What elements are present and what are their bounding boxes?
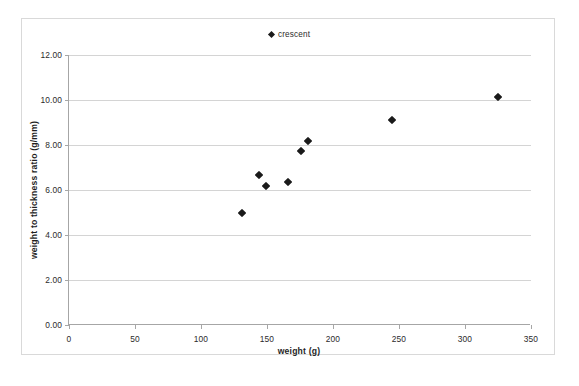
scatter-chart-figure: crescent weight to thickness ratio (g/mm… — [0, 0, 579, 386]
data-point — [238, 208, 246, 216]
y-axis-title-text: weight to thickness ratio (g/mm) — [29, 121, 39, 259]
x-axis-tick-label: 50 — [130, 334, 140, 344]
y-axis-tick-mark — [65, 190, 69, 191]
gridline-horizontal — [69, 280, 531, 281]
x-axis-tick-mark — [531, 325, 532, 329]
gridline-horizontal — [69, 235, 531, 236]
y-axis-tick-label: 12.00 — [41, 50, 62, 60]
x-axis-tick-mark — [135, 325, 136, 329]
y-axis-title: weight to thickness ratio (g/mm) — [27, 55, 41, 325]
x-axis-tick-mark — [399, 325, 400, 329]
gridline-horizontal — [69, 55, 531, 56]
legend-entry-crescent: crescent — [269, 30, 310, 40]
y-axis-tick-label: 8.00 — [45, 140, 62, 150]
diamond-marker-icon — [268, 30, 275, 37]
y-axis-tick-mark — [65, 145, 69, 146]
x-axis-tick-label: 0 — [67, 334, 72, 344]
x-axis-tick-label: 300 — [458, 334, 472, 344]
y-axis-tick-label: 0.00 — [45, 320, 62, 330]
y-axis-tick-label: 6.00 — [45, 185, 62, 195]
x-axis-tick-label: 150 — [260, 334, 274, 344]
x-axis-tick-label: 200 — [326, 334, 340, 344]
x-axis-tick-label: 100 — [194, 334, 208, 344]
y-axis-tick-label: 2.00 — [45, 275, 62, 285]
x-axis-tick-mark — [69, 325, 70, 329]
data-point — [255, 171, 263, 179]
x-axis-tick-label: 350 — [524, 334, 538, 344]
y-axis-tick-mark — [65, 235, 69, 236]
data-point — [284, 178, 292, 186]
legend-label: crescent — [278, 30, 310, 40]
chart-legend: crescent — [0, 30, 579, 40]
data-point — [297, 146, 305, 154]
plot-area: 0.002.004.006.008.0010.0012.000501001502… — [68, 55, 530, 325]
x-axis-tick-mark — [267, 325, 268, 329]
x-axis-title: weight (g) — [68, 346, 530, 356]
gridline-horizontal — [69, 100, 531, 101]
y-axis-tick-mark — [65, 280, 69, 281]
data-point — [388, 116, 396, 124]
y-axis-tick-label: 4.00 — [45, 230, 62, 240]
y-axis-tick-label: 10.00 — [41, 95, 62, 105]
data-point — [304, 136, 312, 144]
x-axis-tick-mark — [201, 325, 202, 329]
x-axis-tick-mark — [465, 325, 466, 329]
gridline-horizontal — [69, 190, 531, 191]
x-axis-tick-label: 250 — [392, 334, 406, 344]
y-axis-tick-mark — [65, 100, 69, 101]
x-axis-tick-mark — [333, 325, 334, 329]
data-point — [261, 181, 269, 189]
y-axis-tick-mark — [65, 55, 69, 56]
